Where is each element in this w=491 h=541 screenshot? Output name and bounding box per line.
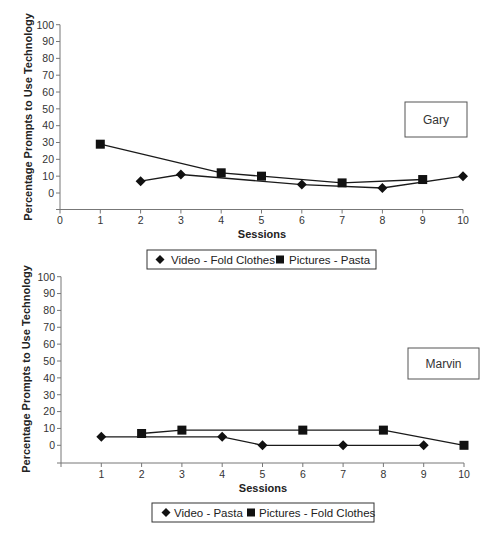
chart-marvin-x-axis-title: Sessions xyxy=(239,482,287,494)
x-tick-label: 4 xyxy=(219,468,225,480)
square-marker-icon xyxy=(137,429,146,438)
diamond-marker-icon xyxy=(297,180,307,190)
square-marker-icon xyxy=(217,168,226,177)
y-tick-label: 80 xyxy=(42,52,54,64)
x-tick-label: 4 xyxy=(218,214,224,226)
x-tick-label: 9 xyxy=(420,214,426,226)
diamond-marker-icon xyxy=(136,176,146,186)
y-tick-label: 90 xyxy=(42,35,54,47)
chart-gary-participant-label: Gary xyxy=(423,113,449,127)
chart-gary-plot-area xyxy=(96,140,468,193)
chart-gary-x-axis-title: Sessions xyxy=(238,228,286,240)
x-tick-label: 1 xyxy=(97,214,103,226)
x-tick-label: 7 xyxy=(339,214,345,226)
figure: 0102030405060708090100012345678910 Perce… xyxy=(0,0,491,541)
x-tick-label: 5 xyxy=(259,214,265,226)
x-tick-label: 10 xyxy=(457,214,469,226)
x-tick-label: 8 xyxy=(379,214,385,226)
y-tick-label: 0 xyxy=(49,439,55,451)
diamond-marker-icon xyxy=(419,440,429,450)
chart-gary: 0102030405060708090100012345678910 Perce… xyxy=(22,12,469,269)
x-tick-label: 1 xyxy=(98,468,104,480)
y-tick-label: 100 xyxy=(36,19,54,31)
chart-marvin: 010203040506070809010012345678910 Percen… xyxy=(20,264,479,522)
chart-gary-legend: Video - Fold Clothes Pictures - Pasta xyxy=(147,250,376,269)
y-tick-label: 60 xyxy=(43,338,55,350)
diamond-marker-icon xyxy=(338,440,348,450)
chart-marvin-legend-item-1: Pictures - Fold Clothes xyxy=(259,507,376,519)
y-tick-label: 20 xyxy=(43,405,55,417)
y-tick-label: 60 xyxy=(42,86,54,98)
chart-gary-legend-item-0: Video - Fold Clothes xyxy=(171,254,275,266)
x-tick-label: 6 xyxy=(299,214,305,226)
y-tick-label: 20 xyxy=(42,153,54,165)
chart-marvin-legend-item-0: Video - Pasta xyxy=(174,507,243,519)
chart-gary-y-axis-title: Percentage Prompts to Use Technology xyxy=(22,12,34,221)
y-tick-label: 0 xyxy=(48,187,54,199)
square-marker-icon xyxy=(298,426,307,435)
y-tick-label: 70 xyxy=(43,321,55,333)
square-marker-icon xyxy=(460,441,469,450)
chart-marvin-legend: Video - Pasta Pictures - Fold Clothes xyxy=(152,503,376,522)
x-tick-label: 10 xyxy=(458,468,470,480)
y-tick-label: 70 xyxy=(42,69,54,81)
y-tick-label: 10 xyxy=(43,422,55,434)
y-tick-label: 30 xyxy=(42,136,54,148)
diamond-marker-icon xyxy=(96,432,106,442)
x-tick-label: 0 xyxy=(57,214,63,226)
x-tick-label: 6 xyxy=(300,468,306,480)
x-tick-label: 8 xyxy=(380,468,386,480)
chart-marvin-y-axis-title: Percentage Prompts to Use Technology xyxy=(20,264,32,473)
y-tick-label: 30 xyxy=(43,389,55,401)
square-marker-icon xyxy=(247,509,255,517)
chart-gary-axes: 0102030405060708090100012345678910 xyxy=(36,19,469,227)
x-tick-label: 5 xyxy=(260,468,266,480)
x-tick-label: 3 xyxy=(178,214,184,226)
square-marker-icon xyxy=(276,256,284,264)
x-tick-label: 2 xyxy=(138,214,144,226)
y-tick-label: 50 xyxy=(43,355,55,367)
chart-marvin-participant-box: Marvin xyxy=(408,348,479,379)
diamond-marker-icon xyxy=(217,432,227,442)
y-tick-label: 50 xyxy=(42,103,54,115)
x-tick-label: 3 xyxy=(179,468,185,480)
diamond-marker-icon xyxy=(258,440,268,450)
x-tick-label: 2 xyxy=(139,468,145,480)
square-marker-icon xyxy=(418,175,427,184)
chart-marvin-plot-area xyxy=(96,426,468,451)
chart-gary-legend-item-1: Pictures - Pasta xyxy=(289,254,371,266)
y-tick-label: 100 xyxy=(37,271,55,283)
square-marker-icon xyxy=(257,172,266,181)
x-tick-label: 7 xyxy=(340,468,346,480)
square-marker-icon xyxy=(177,426,186,435)
chart-gary-participant-box: Gary xyxy=(405,102,467,137)
chart-marvin-participant-label: Marvin xyxy=(425,357,461,371)
square-marker-icon xyxy=(379,426,388,435)
square-marker-icon xyxy=(96,140,105,149)
y-tick-label: 90 xyxy=(43,287,55,299)
square-marker-icon xyxy=(338,178,347,187)
chart-marvin-axes: 010203040506070809010012345678910 xyxy=(37,271,470,481)
diamond-marker-icon xyxy=(176,169,186,179)
y-tick-label: 40 xyxy=(42,119,54,131)
y-tick-label: 80 xyxy=(43,304,55,316)
x-tick-label: 9 xyxy=(421,468,427,480)
diamond-marker-icon xyxy=(377,183,387,193)
diamond-marker-icon xyxy=(458,171,468,181)
y-tick-label: 40 xyxy=(43,372,55,384)
y-tick-label: 10 xyxy=(42,170,54,182)
